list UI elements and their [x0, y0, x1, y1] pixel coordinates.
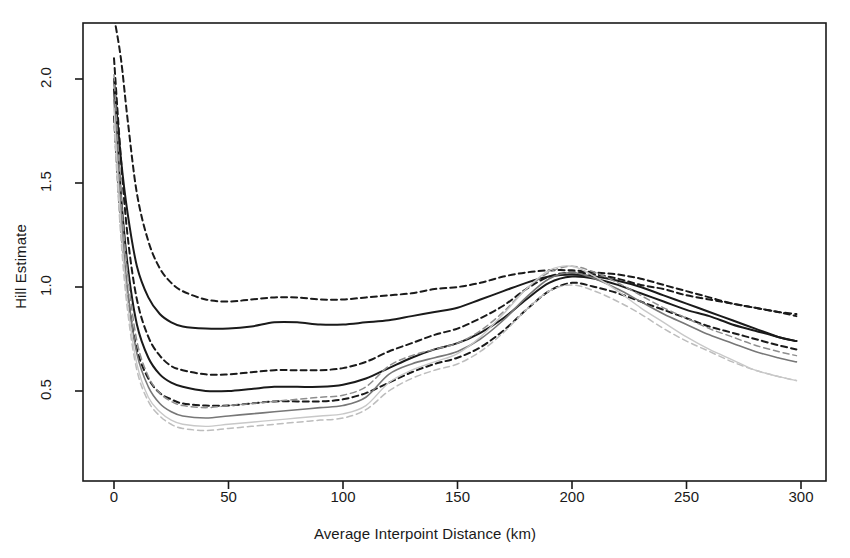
series-line-7 — [114, 125, 796, 431]
curve-group — [114, 17, 796, 431]
y-tick-label: 1.0 — [37, 266, 54, 306]
hill-estimate-plot: Average Interpoint Distance (km) Hill Es… — [0, 0, 850, 558]
series-line-8 — [114, 108, 796, 426]
series-line-2 — [114, 89, 796, 391]
y-tick-label: 2.0 — [37, 58, 54, 98]
x-tick-label: 50 — [220, 488, 237, 505]
axis-ticks — [75, 79, 801, 489]
x-tick-label: 0 — [110, 488, 118, 505]
series-line-4 — [114, 116, 796, 405]
plot-canvas — [0, 0, 850, 558]
frame-rect — [83, 23, 826, 481]
series-line-1 — [114, 17, 796, 317]
x-tick-label: 200 — [559, 488, 584, 505]
series-line-5 — [114, 100, 796, 418]
x-tick-label: 300 — [788, 488, 813, 505]
x-tick-label: 250 — [674, 488, 699, 505]
x-axis-title: Average Interpoint Distance (km) — [0, 525, 850, 542]
x-tick-label: 100 — [330, 488, 355, 505]
y-axis-title: Hill Estimate — [12, 177, 29, 357]
plot-frame — [83, 23, 826, 481]
y-tick-label: 1.5 — [37, 162, 54, 202]
x-tick-label: 150 — [445, 488, 470, 505]
y-tick-label: 0.5 — [37, 370, 54, 410]
